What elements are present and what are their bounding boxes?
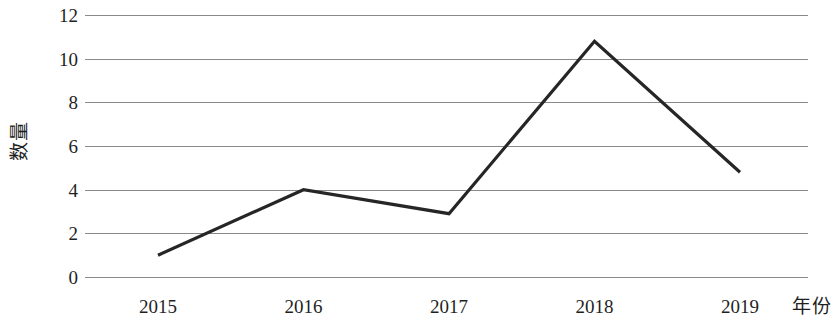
line-chart: 数量 024681012 20152016201720182019 年份 [0,0,835,323]
x-tick-label-2016: 2016 [249,297,359,316]
x-tick-label-2015: 2015 [103,297,213,316]
x-axis-title: 年份 [772,297,835,316]
x-tick-label-2017: 2017 [394,297,504,316]
x-axis-tick-labels: 20152016201720182019 [0,0,835,323]
x-tick-label-2018: 2018 [540,297,650,316]
